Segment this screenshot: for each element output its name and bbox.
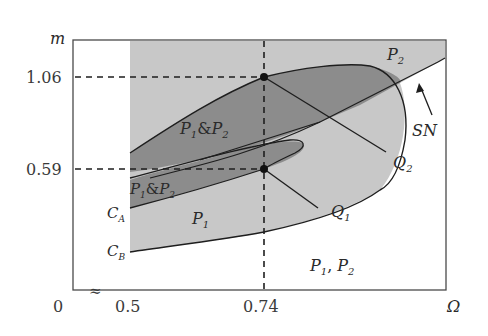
label-sn: SN: [412, 121, 438, 140]
origin-label: 0: [53, 297, 63, 316]
label-p1-comma-p2: P1, P2: [309, 256, 354, 277]
label-p1-and-p2-upper: P1&P2: [179, 119, 229, 140]
x-axis-label: Ω: [446, 297, 460, 316]
x-tick-074: 0.74: [243, 297, 279, 316]
y-axis-label: m: [50, 29, 65, 48]
label-p1-and-p2-lower: P1&P2: [129, 180, 175, 200]
q2-point: [260, 73, 268, 81]
bifurcation-diagram: ≈ m Ω 0 0.5 0.74 1.06 0.59 P1&P2 P1&P2 P…: [0, 0, 488, 336]
y-tick-106: 1.06: [26, 68, 62, 87]
q1-point: [260, 165, 268, 173]
axis-break-icon: ≈: [89, 282, 102, 300]
x-tick-05: 0.5: [115, 297, 140, 316]
y-tick-059: 0.59: [26, 160, 62, 179]
